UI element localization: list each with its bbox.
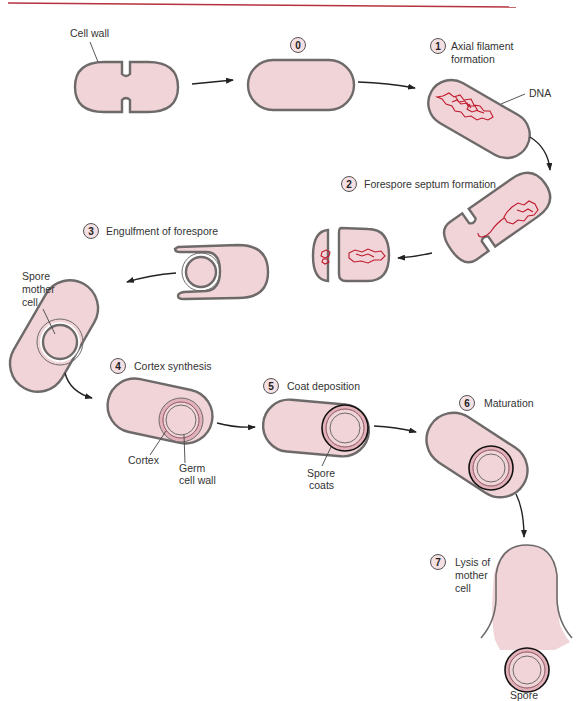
dividing-cell — [75, 62, 178, 112]
svg-text:1: 1 — [435, 41, 441, 52]
arrow-7 — [374, 426, 416, 432]
step-2: 2 Forespore septum formation — [313, 165, 558, 281]
svg-text:6: 6 — [464, 398, 470, 409]
svg-text:Engulfment of forespore: Engulfment of forespore — [106, 225, 218, 237]
header-rule — [8, 3, 516, 7]
svg-text:Maturation: Maturation — [484, 397, 534, 409]
step-1: 1 Axial filament formation DNA — [420, 39, 551, 167]
svg-text:2: 2 — [346, 179, 352, 190]
svg-text:coats: coats — [309, 479, 334, 491]
step-4: 4 Cortex synthesis Cortex Germ cell wall — [103, 359, 218, 487]
svg-text:Lysis of: Lysis of — [455, 556, 490, 568]
step-0: 0 — [248, 38, 354, 111]
step-5: 5 Coat deposition Spore coats — [261, 379, 371, 492]
svg-text:Spore: Spore — [307, 467, 335, 479]
spore-label: Spore — [510, 689, 538, 701]
arrow-8 — [516, 494, 524, 537]
svg-text:mother: mother — [455, 569, 488, 581]
arrow-2 — [530, 137, 550, 170]
svg-text:Germ: Germ — [179, 462, 206, 474]
dna-label: DNA — [529, 87, 551, 99]
svg-text:4: 4 — [115, 361, 121, 372]
svg-text:Axial filament: Axial filament — [451, 40, 514, 52]
spore-mother-cell: Spore mother cell — [0, 270, 108, 402]
step-7: 7 Lysis of mother cell Spore — [431, 545, 573, 701]
svg-text:0: 0 — [295, 40, 301, 51]
svg-text:cell wall: cell wall — [179, 474, 216, 486]
arrow-1 — [358, 82, 415, 88]
svg-text:3: 3 — [88, 226, 94, 237]
svg-text:5: 5 — [268, 381, 274, 392]
arrow-5 — [65, 373, 92, 398]
step-6: 6 Maturation — [416, 396, 538, 508]
lysing-mother-cell — [492, 545, 570, 650]
svg-text:Coat deposition: Coat deposition — [287, 380, 360, 392]
svg-text:cell: cell — [455, 582, 471, 594]
forespore — [186, 257, 216, 287]
arrow-3 — [398, 253, 432, 258]
svg-text:formation: formation — [451, 53, 495, 65]
cortex-label: Cortex — [128, 454, 160, 466]
arrow-4 — [127, 273, 176, 282]
svg-text:Spore: Spore — [22, 270, 50, 282]
sporulation-diagram: Cell wall 0 1 Axial filament formation D… — [0, 0, 583, 701]
cell-wall-label: Cell wall — [70, 27, 109, 39]
step-3: 3 Engulfment of forespore — [84, 224, 269, 300]
arrow-0 — [192, 80, 233, 84]
svg-text:mother: mother — [22, 283, 55, 295]
svg-text:cell: cell — [22, 296, 38, 308]
svg-text:Forespore septum formation: Forespore septum formation — [364, 178, 496, 190]
arrow-6 — [217, 423, 255, 427]
svg-text:7: 7 — [435, 557, 441, 568]
rod-cell — [248, 60, 354, 110]
svg-text:Cortex synthesis: Cortex synthesis — [134, 360, 212, 372]
cell-wall-callout: Cell wall — [70, 27, 109, 62]
divided-cell — [313, 228, 389, 281]
